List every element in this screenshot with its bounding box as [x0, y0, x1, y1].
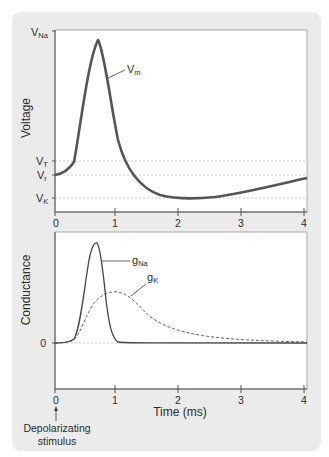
action-potential-figure: Vm VNa VT Vr VK Voltage 0 1 2 3 4 [0, 0, 329, 457]
vna-label: VNa [31, 26, 49, 40]
x-tick-3-bottom: 3 [238, 394, 244, 406]
conductance-plot: gNa gK 0 Conductance 0 1 2 3 4 Time (ms)… [19, 232, 307, 447]
vt-label: VT [36, 155, 48, 169]
x-tick-4: 4 [301, 217, 307, 229]
conductance-axis-title: Conductance [19, 254, 33, 325]
vr-label: Vr [37, 169, 47, 183]
zero-tick-label: 0 [40, 337, 46, 349]
vk-label: VK [36, 192, 48, 206]
conductance-plot-area [55, 232, 307, 389]
voltage-plot: Vm VNa VT Vr VK Voltage 0 1 2 3 4 [19, 26, 307, 229]
stimulus-arrow-icon [54, 406, 58, 421]
x-tick-4-bottom: 4 [301, 394, 307, 406]
stimulus-label-line1: Depolarizating [23, 422, 90, 434]
time-axis-title: Time (ms) [153, 405, 207, 419]
x-tick-1: 1 [112, 217, 118, 229]
x-tick-2: 2 [175, 217, 181, 229]
x-tick-0: 0 [53, 217, 59, 229]
stimulus-label-line2: stimulus [38, 435, 77, 447]
voltage-axis-title: Voltage [19, 98, 33, 138]
x-tick-3: 3 [238, 217, 244, 229]
x-tick-0-bottom: 0 [53, 394, 59, 406]
x-tick-1-bottom: 1 [112, 394, 118, 406]
